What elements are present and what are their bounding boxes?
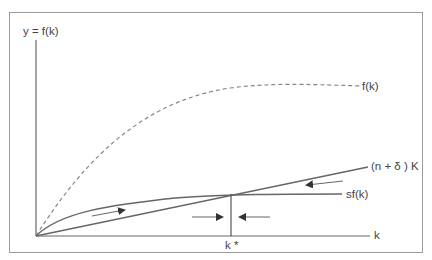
break-even-line-label: (n + δ ) K — [371, 160, 419, 172]
steady-state-label: k * — [225, 239, 238, 251]
savings-curve — [36, 194, 342, 236]
y-axis-label: y = f(k) — [23, 25, 58, 37]
savings-curve-label: sf(k) — [346, 188, 368, 200]
production-curve-label: f(k) — [362, 80, 379, 92]
solow-diagram — [0, 0, 432, 260]
break-even-line — [36, 167, 368, 236]
arrow-right-falling — [307, 181, 343, 185]
production-curve — [36, 84, 362, 236]
arrow-left-rising — [92, 210, 124, 216]
x-axis-label: k — [374, 229, 380, 241]
